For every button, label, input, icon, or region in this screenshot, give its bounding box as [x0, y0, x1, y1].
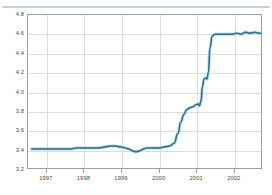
x-axis-tick-label: 2002 — [219, 175, 249, 182]
x-axis-tick-mark — [159, 169, 160, 173]
series-line-halo — [32, 32, 261, 152]
plot-area — [27, 14, 262, 169]
y-axis-tick-label: 3.4 — [2, 147, 24, 153]
y-axis-tick-label: 3.2 — [2, 166, 24, 172]
line-chart-figure: 4.84.64.44.24.03.83.63.43.2 199719981999… — [0, 10, 272, 195]
x-axis-tick-label: 2001 — [181, 175, 211, 182]
y-axis-tick-label: 4.0 — [2, 89, 24, 95]
x-axis-tick-mark — [46, 169, 47, 173]
y-axis-tick-label: 4.4 — [2, 50, 24, 56]
y-axis-tick-label: 4.2 — [2, 69, 24, 75]
x-axis-tick-label: 1999 — [106, 175, 136, 182]
x-axis-tick-label: 1997 — [31, 175, 61, 182]
x-axis-tick-mark — [196, 169, 197, 173]
y-axis-tick-label: 4.8 — [2, 11, 24, 17]
x-axis-tick-label: 1998 — [68, 175, 98, 182]
x-axis-tick-mark — [83, 169, 84, 173]
x-axis-tick-mark — [121, 169, 122, 173]
x-axis-tick-label: 2000 — [144, 175, 174, 182]
y-axis-tick-label: 3.8 — [2, 108, 24, 114]
clipped-header-text: · · ··· ···· ····· ·· · — [38, 0, 268, 3]
x-axis-tick-mark — [234, 169, 235, 173]
y-axis-tick-label: 4.6 — [2, 30, 24, 36]
series-line-chart — [28, 15, 261, 168]
series-line-path — [32, 32, 261, 152]
y-axis-tick-label: 3.6 — [2, 127, 24, 133]
clipped-header-band: · · ··· ···· ····· ·· · — [0, 0, 272, 8]
